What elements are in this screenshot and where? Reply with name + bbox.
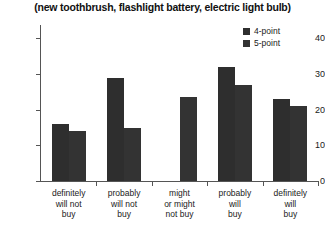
- x-axis-line: [40, 181, 319, 182]
- bar: [290, 106, 307, 181]
- x-tick-mark: [263, 181, 264, 186]
- x-category-label-line: will not: [96, 199, 151, 210]
- x-category-label: definitelywill notbuy: [41, 188, 96, 220]
- bar: [107, 78, 124, 181]
- x-tick-mark: [96, 181, 97, 186]
- x-category-label: mightor mightnot buy: [152, 188, 207, 220]
- bar: [180, 97, 197, 181]
- x-category-label: probablywill notbuy: [96, 188, 151, 220]
- bar: [218, 67, 235, 181]
- x-category-label-line: or might: [152, 199, 207, 210]
- x-category-label-line: definitely: [263, 188, 318, 199]
- bar: [52, 124, 69, 181]
- x-category-label: probablywillbuy: [207, 188, 262, 220]
- x-category-label-line: buy: [207, 209, 262, 220]
- x-category-label-line: probably: [96, 188, 151, 199]
- bar: [235, 85, 252, 181]
- bar: [69, 131, 86, 181]
- x-category-label-line: will: [207, 199, 262, 210]
- y-tick-mark: [36, 181, 41, 182]
- x-category-label-line: buy: [96, 209, 151, 220]
- x-category-label-line: might: [152, 188, 207, 199]
- x-category-label-line: buy: [263, 209, 318, 220]
- bar: [124, 128, 141, 181]
- bars-layer: [41, 26, 318, 181]
- chart-title: (new toothbrush, flashlight battery, ele…: [0, 1, 325, 13]
- bar: [273, 99, 290, 181]
- x-category-label-line: definitely: [41, 188, 96, 199]
- x-category-label-line: probably: [207, 188, 262, 199]
- x-category-label-line: not buy: [152, 209, 207, 220]
- x-category-label-line: will: [263, 199, 318, 210]
- bar-chart: (new toothbrush, flashlight battery, ele…: [0, 0, 325, 231]
- x-category-label-line: will not: [41, 199, 96, 210]
- x-category-label-line: buy: [41, 209, 96, 220]
- x-tick-mark: [152, 181, 153, 186]
- x-category-label: definitelywillbuy: [263, 188, 318, 220]
- x-tick-mark: [318, 181, 319, 186]
- x-tick-mark: [207, 181, 208, 186]
